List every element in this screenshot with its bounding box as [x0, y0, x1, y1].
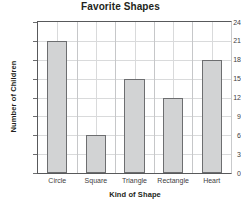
gridline-vertical [115, 22, 116, 173]
bar-rectangle [163, 98, 183, 174]
gridline-vertical [154, 22, 155, 173]
bar-circle [47, 41, 67, 173]
x-axis-title: Kind of Shape [37, 190, 233, 199]
x-tick-label-circle: Circle [38, 177, 77, 185]
gridline-vertical [77, 22, 78, 173]
gridline-vertical [192, 22, 193, 173]
bar-square [86, 135, 106, 173]
plot-inner [38, 22, 231, 173]
y-axis-title: Number of Children [9, 37, 18, 157]
bar-triangle [124, 79, 144, 173]
x-tick-label-square: Square [77, 177, 116, 185]
chart-title: Favorite Shapes [0, 1, 241, 12]
plot-area [37, 21, 232, 174]
x-tick-label-triangle: Triangle [115, 177, 154, 185]
bar-chart: Favorite Shapes Number of Children Kind … [0, 0, 241, 202]
x-tick-label-heart: Heart [192, 177, 231, 185]
x-tick-label-rectangle: Rectangle [154, 177, 193, 185]
bar-heart [202, 60, 222, 173]
